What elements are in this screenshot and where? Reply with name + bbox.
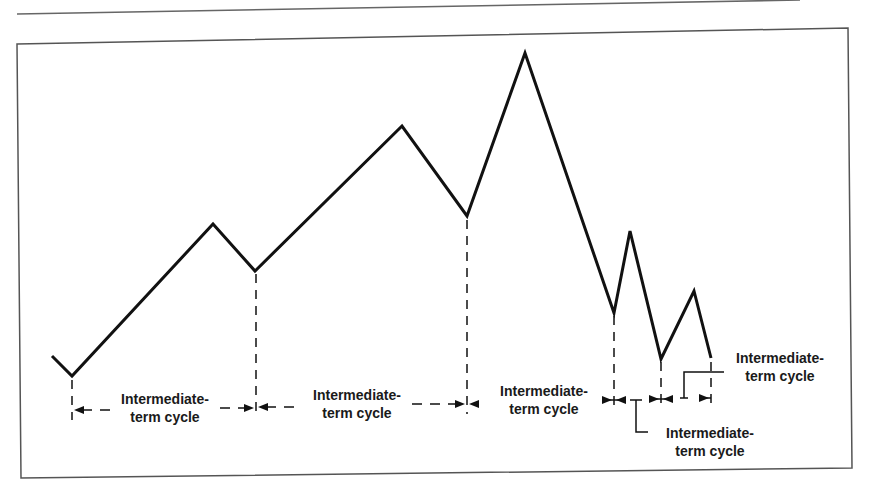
- arrow-right-icon: [244, 404, 254, 412]
- svg-text:Intermediate-: Intermediate-: [313, 387, 401, 403]
- svg-text:Intermediate-: Intermediate-: [666, 425, 754, 441]
- svg-text:term cycle: term cycle: [745, 368, 814, 384]
- arrow-left-icon: [469, 400, 479, 408]
- label-cycle-3: Intermediate- term cycle: [500, 383, 588, 417]
- svg-text:Intermediate-: Intermediate-: [121, 391, 209, 407]
- svg-text:term cycle: term cycle: [322, 405, 391, 421]
- svg-text:term cycle: term cycle: [130, 409, 199, 425]
- label-cycle-2: Intermediate- term cycle: [313, 387, 401, 421]
- top-rule: [17, 0, 800, 14]
- cycle-diagram: Intermediate- term cycle Intermediate- t…: [0, 0, 872, 503]
- svg-text:term cycle: term cycle: [509, 401, 578, 417]
- arrow-left-icon: [258, 403, 268, 411]
- label-cycle-5: Intermediate- term cycle: [736, 350, 824, 384]
- arrow-right-icon: [455, 400, 465, 408]
- label-cycle-1: Intermediate- term cycle: [121, 391, 209, 425]
- svg-text:Intermediate-: Intermediate-: [500, 383, 588, 399]
- price-path: [52, 53, 711, 376]
- svg-text:Intermediate-: Intermediate-: [736, 350, 824, 366]
- label-cycle-4: Intermediate- term cycle: [666, 425, 754, 459]
- svg-text:term cycle: term cycle: [675, 443, 744, 459]
- arrow-left-icon: [74, 406, 84, 414]
